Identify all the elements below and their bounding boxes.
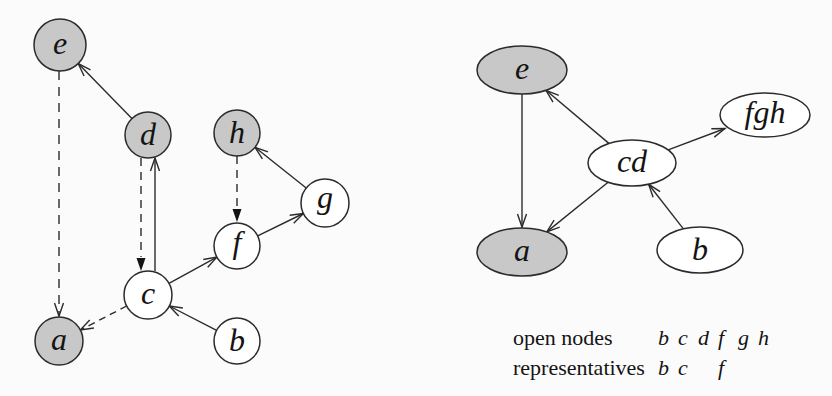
edge-g-h [255,147,306,188]
edge-cd-e [546,90,609,143]
edge-f-g [258,214,304,236]
node-e: e [34,19,86,71]
arrowhead-b-c [169,306,183,316]
edge-c-a [80,306,126,330]
node-g: g [301,179,349,227]
node-f: f [214,223,260,269]
node-e-right: e [477,46,567,94]
node-cd-label: cd [617,143,648,179]
left-graph: e d h g f c b [34,19,349,365]
edge-cd-a [547,182,608,232]
arrowhead-c-f [203,257,217,267]
node-a-right: a [477,228,567,276]
legend-open-node-b: b [658,323,678,353]
edge-cd-fgh [668,129,725,150]
legend-representative-c: c [678,353,698,383]
legend-representative-b: b [658,353,678,383]
legend-open-node-g: g [738,323,758,353]
node-b-label: b [229,322,245,358]
right-graph: e fgh cd a b [477,46,810,276]
node-fgh: fgh [720,93,810,137]
arrowhead-f-g [290,214,304,224]
edge-b-cd [649,184,684,228]
edge-b-c [169,306,216,330]
node-e-label: e [53,25,67,61]
legend-open-node-h: h [758,323,778,353]
arrowhead-c-a [80,320,94,330]
node-b-right-label: b [692,231,708,267]
legend: open nodes b c d f g h representatives b… [513,323,778,383]
arrowhead-triangle-h-f [233,209,242,222]
node-fgh-label: fgh [745,94,786,130]
legend-open-node-f: f [718,323,738,353]
arrowhead-triangle-d-c [137,258,146,271]
node-c: c [124,271,172,319]
edge-d-e [78,64,132,119]
node-d: d [125,112,171,158]
node-a-label: a [51,321,67,357]
node-e-right-label: e [515,50,529,86]
legend-representatives-label: representatives [513,353,658,383]
legend-open-node-d: d [698,323,718,353]
legend-representative-f: f [718,353,738,383]
node-b: b [214,318,260,364]
figure-canvas: e d h g f c b [0,0,832,396]
legend-row-open-nodes: open nodes b c d f g h [513,323,778,353]
edge-c-f [169,257,217,283]
legend-open-node-c: c [678,323,698,353]
node-h-label: h [229,114,245,150]
legend-row-representatives: representatives b c f [513,353,778,383]
node-a-right-label: a [514,232,530,268]
node-c-label: c [141,275,155,311]
node-a: a [35,317,83,365]
arrowhead-e-a [55,303,64,316]
node-d-label: d [140,116,157,152]
legend-open-nodes-label: open nodes [513,323,658,353]
node-b-right: b [657,227,743,273]
node-h: h [214,110,260,156]
node-cd: cd [588,140,676,186]
node-g-label: g [317,179,333,215]
